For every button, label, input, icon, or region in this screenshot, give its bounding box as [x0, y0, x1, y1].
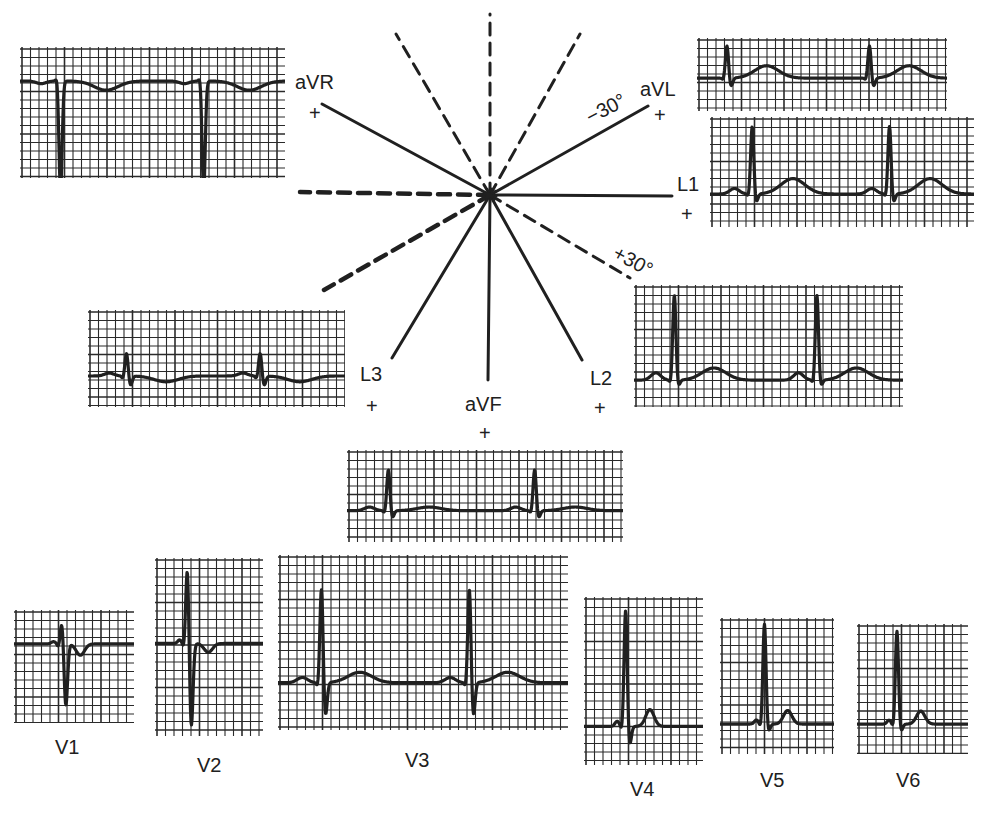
- ecg-grid: [697, 38, 947, 111]
- lead-label-l2: L2: [590, 368, 612, 388]
- ecg-waveform: [155, 573, 263, 725]
- ecg-strip-l1: [710, 117, 974, 227]
- ecg-strip-avf: [347, 450, 623, 542]
- precordial-label-v4: V4: [630, 779, 654, 799]
- lead-label-avr: aVR: [295, 72, 334, 92]
- negative-axis-dashed-line: [490, 195, 630, 278]
- ecg-grid: [347, 450, 623, 542]
- lead-plus-l1: +: [681, 204, 693, 224]
- ecg-strip-avl: [697, 38, 947, 111]
- ecg-grid: [14, 610, 134, 723]
- ecg-grid: [857, 624, 968, 754]
- ecg-strip-v5: [720, 618, 834, 754]
- precordial-label-v6: V6: [896, 770, 920, 790]
- ecg-waveform: [584, 611, 703, 743]
- axis-line-l2: [490, 195, 582, 360]
- ecg-strip-v1: [14, 610, 134, 723]
- ecg-hexaxial-figure: aVR + aVL + −30° L1 + +30° L3 + aVF + L2…: [0, 0, 991, 816]
- precordial-label-v3: V3: [405, 750, 429, 770]
- lead-label-l1: L1: [677, 174, 699, 194]
- lead-plus-avf: +: [479, 423, 491, 443]
- axis-line-avf: [488, 195, 490, 380]
- ecg-waveform: [20, 80, 285, 178]
- ecg-grid: [155, 558, 263, 736]
- precordial-label-v1: V1: [55, 737, 79, 757]
- ecg-grid: [584, 597, 703, 765]
- lead-label-avl: aVL: [640, 79, 676, 99]
- ecg-strip-avr: [20, 47, 285, 178]
- negative-axis-dashed-line: [300, 192, 490, 195]
- ecg-grid: [720, 618, 834, 754]
- lead-plus-avr: +: [309, 103, 321, 123]
- lead-label-avf: aVF: [465, 394, 502, 414]
- ecg-waveform: [720, 624, 834, 730]
- axis-line-l3: [392, 195, 490, 358]
- precordial-label-v5: V5: [760, 770, 784, 790]
- ecg-strip-l2: [634, 285, 903, 407]
- lead-plus-l2: +: [594, 398, 606, 418]
- negative-axis-dashed-line: [324, 195, 490, 290]
- ecg-waveform: [634, 296, 903, 385]
- ecg-strip-v6: [857, 624, 968, 754]
- precordial-label-v2: V2: [197, 755, 221, 775]
- ecg-strip-v4: [584, 597, 703, 765]
- axis-line-l1: [490, 195, 672, 196]
- lead-label-l3: L3: [360, 364, 382, 384]
- lead-plus-avl: +: [654, 105, 666, 125]
- ecg-grid: [278, 555, 568, 730]
- ecg-strip-v2: [155, 558, 263, 736]
- ecg-waveform: [710, 127, 974, 201]
- ecg-waveform: [857, 631, 968, 729]
- ecg-strip-l3: [88, 310, 345, 407]
- ecg-strip-v3: [278, 555, 568, 730]
- lead-plus-l3: +: [366, 396, 378, 416]
